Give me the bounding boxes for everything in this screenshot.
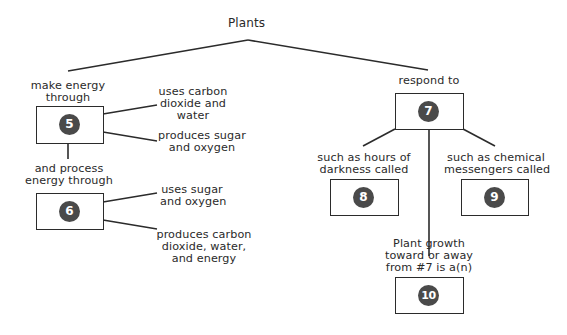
- label-hours-of-darkness: such as hours of darkness called: [315, 152, 413, 176]
- answer-box-9[interactable]: 9: [461, 179, 529, 216]
- line-box7-left: [363, 129, 395, 146]
- number-badge-7: 7: [418, 101, 439, 122]
- note-produces-sugar-oxygen: produces sugar and oxygen: [158, 130, 246, 154]
- line-plants-right: [248, 40, 428, 70]
- title-plants: Plants: [228, 17, 265, 29]
- label-plant-growth: Plant growth toward or away from #7 is a…: [384, 238, 474, 274]
- label-make-energy: make energy through: [30, 80, 106, 104]
- line-plants-left: [68, 40, 248, 71]
- number-badge-8: 8: [353, 187, 374, 208]
- note-uses-sugar-oxygen: uses sugar and oxygen: [160, 184, 224, 208]
- line-box6-bottom: [103, 220, 157, 229]
- label-respond-to: respond to: [393, 75, 465, 87]
- label-process-energy: and process energy through: [24, 163, 114, 187]
- note-uses-co2-water: uses carbon dioxide and water: [158, 86, 228, 122]
- note-produces-co2-water-energy: produces carbon dioxide, water, and ener…: [156, 229, 252, 265]
- answer-box-8[interactable]: 8: [330, 179, 399, 216]
- answer-box-6[interactable]: 6: [36, 193, 104, 230]
- line-box5-top: [103, 105, 157, 114]
- line-box7-right: [463, 129, 495, 146]
- line-box5-bottom: [103, 132, 157, 141]
- number-badge-10: 10: [418, 285, 439, 306]
- number-badge-9: 9: [484, 187, 505, 208]
- answer-box-10[interactable]: 10: [395, 277, 464, 314]
- number-badge-5: 5: [59, 114, 80, 135]
- answer-box-5[interactable]: 5: [36, 106, 104, 144]
- answer-box-7[interactable]: 7: [395, 93, 464, 130]
- line-box6-top: [103, 193, 157, 202]
- number-badge-6: 6: [59, 201, 80, 222]
- label-chemical-messengers: such as chemical messengers called: [444, 152, 548, 176]
